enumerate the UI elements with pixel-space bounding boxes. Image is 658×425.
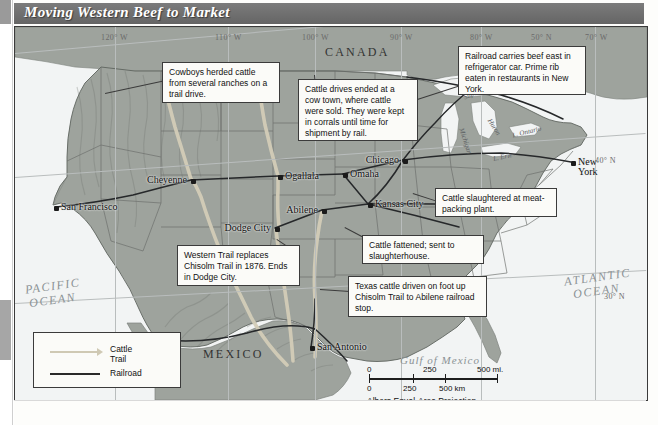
legend-railroad-line1: Railroad (110, 369, 142, 379)
page-title: Moving Western Beef to Market (24, 4, 230, 21)
map-page: Moving Western Beef to Market (0, 0, 658, 425)
city-label: Chicago (366, 154, 399, 165)
city-label: Dodge City (225, 222, 271, 233)
city-label: Ogallala (285, 170, 319, 181)
callout-cow-town: Cattle drives ended at a cow town, where… (298, 79, 418, 141)
graticule-label-0: 120° W (101, 33, 128, 42)
city-marker-dot (368, 203, 373, 208)
callout-railroad-east: Railroad carries beef east in refrigerat… (458, 46, 586, 95)
callout-text: Cattle drives ended at a cow town, where… (305, 84, 411, 139)
callout-cowboys: Cowboys herded cattle from several ranch… (162, 62, 280, 103)
graticule-label-5: 50° N (531, 33, 552, 42)
country-label-mexico: MEXICO (203, 347, 264, 362)
scale-tick-left (369, 374, 370, 383)
scale-bar-line (369, 378, 497, 380)
callout-text: Texas cattle driven on foot up Chisolm T… (355, 281, 480, 314)
scale-km-tick-250: 250 (403, 384, 416, 393)
legend-cattle-trail-symbol (50, 351, 98, 353)
callout-text: Cattle slaughtered at meat-packing plant… (442, 193, 550, 215)
scale-mi-tick-0: 0 (367, 365, 371, 374)
callout-cattle-fattened: Cattle fattened; sent to slaughterhouse. (362, 235, 484, 264)
city-label: San Francisco (61, 201, 117, 212)
meridian-70w (595, 27, 596, 400)
spine-mark-bottom (0, 300, 11, 360)
city-marker-dot (322, 209, 327, 214)
graticule-label-2: 100° W (302, 33, 329, 42)
scale-tick-right (497, 374, 498, 383)
city-marker-dot (54, 206, 59, 211)
city-label: Abilene (286, 204, 318, 215)
callout-text: Western Trail replaces Chisolm Trail in … (184, 250, 293, 283)
city-label: New York (578, 157, 598, 177)
legend-railroad-symbol (50, 373, 100, 375)
trail-to-ogallala (278, 176, 279, 227)
city-marker-dot (571, 161, 576, 166)
graticule-label-4: 80° W (470, 33, 493, 42)
city-marker-dot (275, 227, 280, 232)
city-marker-dot (343, 173, 348, 178)
legend-cattle-trail-label: Cattle Trail (110, 345, 132, 364)
scale-mi-tick-500: 500 mi. (477, 365, 503, 374)
city-label: Omaha (350, 168, 379, 179)
city-label: Cheyenne (147, 174, 187, 185)
legend-railroad-label: Railroad (110, 369, 142, 379)
legend-cattle-trail-line2: Trail (110, 355, 132, 365)
scale-km-tick-0: 0 (367, 384, 371, 393)
callout-text: Cattle fattened; sent to slaughterhouse. (369, 240, 477, 262)
city-marker-dot (278, 175, 283, 180)
scale-tick-mid2 (445, 374, 446, 383)
callout-slaughter-plant: Cattle slaughtered at meat-packing plant… (435, 188, 557, 217)
callout-text: Railroad carries beef east in refrigerat… (465, 51, 579, 95)
graticule-label-7: 40° N (595, 156, 616, 165)
city-marker-dot (310, 346, 315, 351)
cattle-trail-arrow-icon (97, 348, 103, 356)
scale-bar: 0 250 500 mi. 0 250 500 km Albers Equal-… (367, 365, 537, 401)
country-label-canada: CANADA (325, 45, 390, 60)
scale-mi-tick-250: 250 (423, 365, 436, 374)
city-label: San Antonio (317, 341, 367, 352)
scale-km-tick-500: 500 km (439, 384, 465, 393)
page-bottom-rule (14, 400, 646, 401)
spine-rule (12, 0, 13, 425)
map-legend: Cattle Trail Railroad (33, 332, 181, 388)
graticule-label-3: 90° W (390, 33, 413, 42)
callout-text: Cowboys herded cattle from several ranch… (169, 67, 273, 100)
graticule-label-6: 70° W (585, 33, 608, 42)
city-marker-dot (191, 179, 196, 184)
map-canvas: 120° W110° W100° W90° W80° W50° N70° W40… (15, 27, 647, 400)
callout-texas-cattle: Texas cattle driven on foot up Chisolm T… (348, 276, 487, 317)
city-label: Kansas City (375, 198, 424, 209)
title-bar: Moving Western Beef to Market (14, 3, 644, 24)
scale-tick-mid (413, 374, 414, 383)
spine-mark-top (0, 0, 11, 24)
city-marker-dot (403, 159, 408, 164)
graticule-label-1: 110° W (215, 33, 242, 42)
callout-western-trail: Western Trail replaces Chisolm Trail in … (177, 245, 300, 286)
map-frame: 120° W110° W100° W90° W80° W50° N70° W40… (14, 26, 648, 401)
